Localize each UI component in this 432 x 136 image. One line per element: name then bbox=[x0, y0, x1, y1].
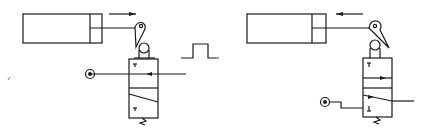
arrow-left-icon bbox=[336, 12, 363, 16]
valve-left bbox=[90, 59, 186, 125]
right-panel bbox=[247, 12, 414, 124]
diagram-canvas bbox=[0, 0, 432, 136]
air-supply-icon bbox=[321, 98, 364, 109]
roller-lever-icon bbox=[134, 23, 155, 59]
cylinder-left bbox=[23, 14, 135, 43]
speck bbox=[8, 77, 10, 80]
pneumatic-diagram bbox=[0, 0, 432, 136]
cylinder-right bbox=[247, 14, 370, 43]
roller-lever-tripped-icon bbox=[369, 21, 389, 58]
left-panel bbox=[23, 12, 216, 125]
arrow-right-icon bbox=[109, 12, 136, 16]
valve-right bbox=[363, 58, 414, 124]
pulse-signal-icon bbox=[181, 44, 216, 58]
